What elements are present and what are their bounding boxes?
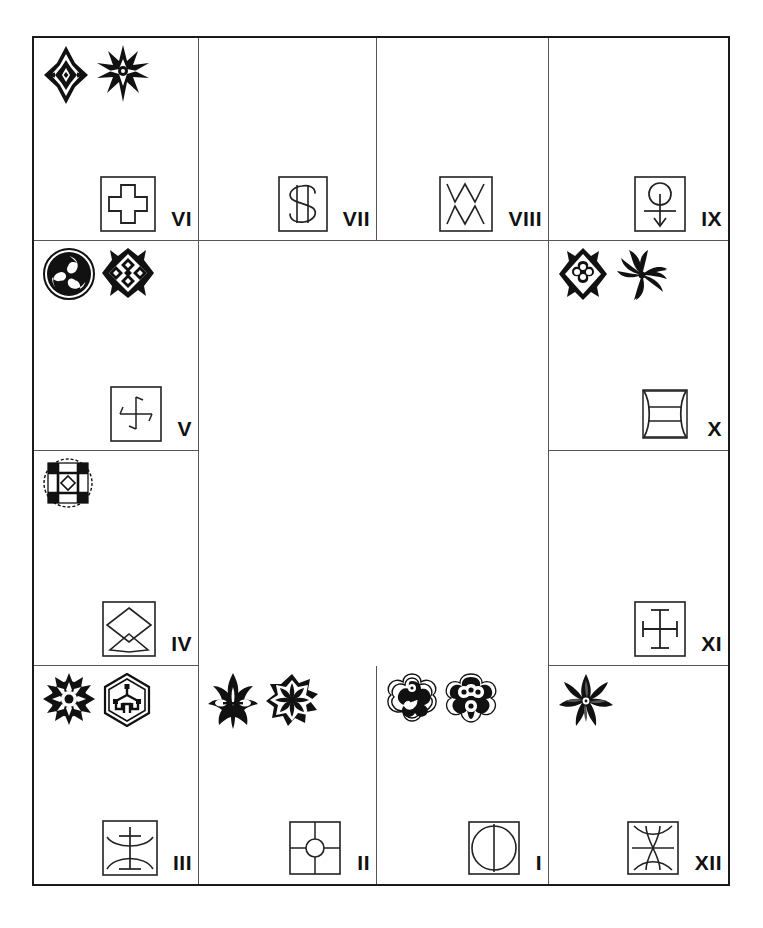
cell-xi[interactable]: XI [549, 451, 728, 666]
quartered-square-with-circle-glyph [287, 819, 343, 877]
glyph-row-x: X [549, 385, 722, 443]
cell-ix[interactable]: IX [549, 38, 728, 241]
cell-v[interactable]: V [34, 241, 199, 451]
glyph-row-xii: XII [549, 819, 722, 877]
quatrefoil-diamond-crest [558, 248, 608, 300]
cell-iv[interactable]: IV [34, 451, 199, 666]
numeral-ii: II [357, 852, 370, 877]
numeral-i: I [536, 852, 542, 877]
hourglass-lens-in-box-glyph [625, 819, 681, 877]
numeral-ix: IX [701, 208, 722, 233]
double-zigzag-in-box-glyph [438, 175, 494, 233]
four-loop-quatrefoil-crest [445, 673, 497, 723]
cell-i[interactable]: I [377, 666, 549, 884]
numeral-xii: XII [695, 852, 722, 877]
split-circle-in-box-glyph [466, 819, 522, 877]
cell-vi[interactable]: VI [34, 38, 199, 241]
glyph-row-vi: VI [34, 175, 192, 233]
checkered-roundel-crest [43, 458, 93, 508]
cell-viii[interactable]: VIII [377, 38, 549, 241]
numeral-x: X [707, 418, 722, 443]
glyph-row-iv: IV [34, 600, 192, 658]
spiked-sun-roundel-crest [43, 673, 95, 725]
glyph-row-viii: VIII [377, 175, 542, 233]
numeral-vi: VI [171, 208, 192, 233]
cell-x[interactable]: X [549, 241, 728, 451]
crest-row-ii [208, 673, 319, 729]
glyph-row-v: V [34, 385, 192, 443]
emblem-grid: VI VII VIII [32, 36, 730, 886]
comma-swirl-quatrefoil-crest [386, 673, 438, 725]
numeral-vii: VII [343, 208, 370, 233]
empty-center-block [199, 241, 549, 666]
pinwheel-cross-in-box-glyph [109, 385, 163, 443]
filled-triple-comma-roundel-crest [43, 248, 95, 300]
crest-row-x [558, 248, 669, 302]
filled-eight-petal-rosette-crest [265, 673, 319, 727]
glyph-row-ii: II [199, 819, 370, 877]
numeral-v: V [177, 418, 192, 443]
glyph-row-vii: VII [199, 175, 370, 233]
filled-swirl-rosette-crest [615, 248, 669, 302]
concave-square-with-bars-in-box-glyph [637, 385, 693, 443]
glyph-row-i: I [377, 819, 542, 877]
ornate-radiant-burst-crest [96, 45, 150, 103]
crest-row-vi [43, 45, 150, 105]
four-petal-flower-crest [558, 673, 614, 729]
crest-row-xii [558, 673, 614, 729]
crest-row-iii [43, 673, 152, 727]
numeral-xi: XI [701, 633, 722, 658]
crest-row-iv [43, 458, 93, 508]
ornate-eight-point-star-crest [43, 45, 89, 105]
circle-with-down-arrow-in-box-glyph [633, 175, 687, 233]
double-diamond-in-box-glyph [101, 600, 157, 658]
greek-cross-in-box-glyph [99, 175, 157, 233]
fleur-palmette-crest [208, 673, 258, 729]
cell-xii[interactable]: XII [549, 666, 728, 884]
crest-row-v [43, 248, 154, 300]
cell-vii[interactable]: VII [199, 38, 377, 241]
glyph-row-iii: III [34, 819, 192, 877]
cell-ii[interactable]: II [199, 666, 377, 884]
numeral-iv: IV [171, 633, 192, 658]
double-arc-barred-staff-in-box-glyph [101, 819, 159, 877]
cell-iii[interactable]: III [34, 666, 199, 884]
hexagon-knot-crest [102, 673, 152, 727]
dollar-sign-in-box-glyph [277, 175, 329, 233]
plate-sheet: VI VII VIII [0, 0, 763, 928]
glyph-row-xi: XI [549, 600, 722, 658]
numeral-viii: VIII [508, 208, 542, 233]
barred-cross-in-box-glyph [633, 600, 687, 658]
glyph-row-ix: IX [549, 175, 722, 233]
numeral-iii: III [173, 852, 192, 877]
lattice-diamond-crest [102, 248, 154, 298]
crest-row-i [386, 673, 497, 725]
